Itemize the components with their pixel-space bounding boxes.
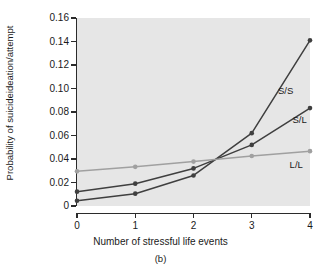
- y-tick-mark: [71, 17, 76, 18]
- y-tick-label: 0.06: [50, 131, 69, 141]
- x-tick-mark: [251, 213, 252, 218]
- x-tick-mark: [135, 213, 136, 218]
- x-axis-title: Number of stressful life events: [0, 236, 321, 247]
- y-tick-mark: [71, 64, 76, 65]
- series-label-l-l: L/L: [290, 160, 303, 170]
- y-tick-label: 0: [63, 201, 69, 211]
- y-axis-title: ideation/attempt Probability of suicide: [4, 8, 30, 198]
- x-tick-mark: [193, 213, 194, 218]
- y-tick-mark: [71, 205, 76, 206]
- y-tick-mark: [71, 158, 76, 159]
- y-tick-label: 0.04: [50, 154, 69, 164]
- x-tick-label: 3: [242, 221, 262, 231]
- y-tick-label: 0.12: [50, 60, 69, 70]
- panel-caption: (b): [0, 253, 321, 264]
- y-tick-mark: [71, 111, 76, 112]
- y-tick-mark: [71, 88, 76, 89]
- x-tick-mark: [76, 213, 77, 218]
- x-tick-label: 2: [184, 221, 204, 231]
- figure-panel-b: 00.020.040.060.080.100.120.140.16 01234 …: [0, 0, 321, 272]
- x-tick-label: 4: [300, 221, 320, 231]
- plot-area: [77, 18, 310, 206]
- y-tick-label: 0.08: [50, 107, 69, 117]
- series-label-s-l: S/L: [293, 115, 307, 125]
- x-tick-label: 0: [67, 221, 87, 231]
- y-axis-title-line-2: ideation/attempt: [4, 26, 16, 94]
- y-tick-mark: [71, 135, 76, 136]
- y-tick-mark: [71, 182, 76, 183]
- x-tick-mark: [309, 213, 310, 218]
- y-tick-label: 0.16: [50, 13, 69, 23]
- y-tick-label: 0.02: [50, 178, 69, 188]
- y-tick-label: 0.10: [50, 84, 69, 94]
- x-tick-label: 1: [125, 221, 145, 231]
- y-tick-mark: [71, 41, 76, 42]
- y-tick-label: 0.14: [50, 37, 69, 47]
- y-axis-title-line-1: Probability of suicide: [4, 93, 16, 180]
- series-label-s-s: S/S: [278, 86, 293, 96]
- y-axis-line: [76, 18, 77, 206]
